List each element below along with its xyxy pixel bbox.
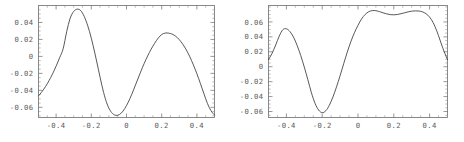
plot-right-x-tick-labels: -0.4-0.200.20.4: [277, 121, 437, 130]
plot-right-curves: [269, 11, 448, 113]
x-tick-label: -0.2: [313, 121, 332, 130]
y-tick-label: -0.04: [240, 92, 264, 101]
y-tick-label: 0.06: [245, 18, 264, 27]
y-tick-label: 0: [29, 52, 34, 61]
x-tick-label: 0: [124, 121, 129, 130]
plot-left-frame: [39, 6, 215, 118]
plot-left-svg: -0.4-0.200.20.4 0.040.020-0.02-0.04-0.06: [0, 0, 232, 142]
plot-right-y-tick-labels: 0.060.040.020-0.02-0.04-0.06: [240, 18, 264, 117]
plot-right-svg: -0.4-0.200.20.4 0.060.040.020-0.02-0.04-…: [232, 0, 464, 142]
data-curve: [39, 9, 215, 115]
plot-right-frame: [269, 6, 448, 118]
plot-left: -0.4-0.200.20.4 0.040.020-0.02-0.04-0.06: [0, 0, 232, 142]
x-tick-label: -0.4: [277, 121, 296, 130]
y-tick-label: -0.06: [10, 103, 34, 112]
x-tick-label: -0.4: [47, 121, 66, 130]
y-tick-label: -0.02: [10, 69, 34, 78]
x-tick-label: 0.2: [155, 121, 169, 130]
figure-row: -0.4-0.200.20.4 0.040.020-0.02-0.04-0.06…: [0, 0, 464, 142]
y-tick-label: 0.02: [15, 35, 34, 44]
y-tick-label: 0: [259, 62, 264, 71]
x-tick-label: -0.2: [82, 121, 101, 130]
y-tick-label: 0.04: [245, 32, 264, 41]
y-tick-label: 0.02: [245, 47, 264, 56]
x-tick-label: 0: [356, 121, 361, 130]
x-tick-label: 0.4: [423, 121, 437, 130]
plot-left-curves: [39, 9, 215, 115]
y-tick-label: -0.06: [240, 107, 264, 116]
y-tick-label: -0.02: [240, 77, 264, 86]
plot-left-y-tick-labels: 0.040.020-0.02-0.04-0.06: [10, 18, 34, 112]
plot-left-ticks: [39, 6, 215, 118]
x-tick-label: 0.4: [190, 121, 204, 130]
plot-right-ticks: [269, 6, 448, 118]
plot-right: -0.4-0.200.20.4 0.060.040.020-0.02-0.04-…: [232, 0, 464, 142]
data-curve: [269, 11, 448, 113]
x-tick-label: 0.2: [387, 121, 401, 130]
y-tick-label: 0.04: [15, 18, 34, 27]
y-tick-label: -0.04: [10, 86, 34, 95]
plot-left-x-tick-labels: -0.4-0.200.20.4: [47, 121, 204, 130]
